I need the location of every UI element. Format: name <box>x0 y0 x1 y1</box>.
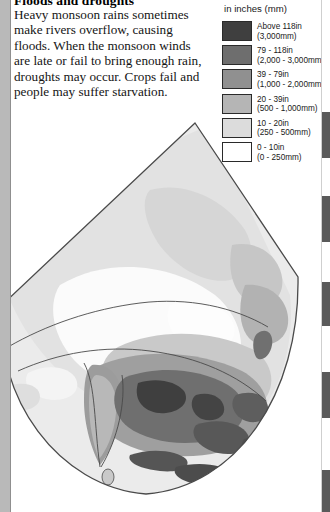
legend-label-mm: (0 - 250mm) <box>257 153 302 163</box>
article-paragraph: Heavy monsoon rains sometimes make river… <box>14 7 210 99</box>
legend-label-mm: (250 - 500mm) <box>257 128 311 138</box>
legend-item-20-39in: 20 - 39in (500 - 1,000mm) <box>222 94 330 114</box>
legend-swatch-0-10in <box>222 142 252 162</box>
legend-label-inches: 79 - 118in <box>257 46 324 56</box>
page-edge-tab <box>322 372 330 418</box>
page-edge-tab <box>322 282 330 326</box>
legend-swatch-20-39in <box>222 94 252 114</box>
legend-label-20-39in: 20 - 39in (500 - 1,000mm) <box>257 94 318 114</box>
legend-swatch-79-118in <box>222 45 252 65</box>
legend-swatch-above-118in <box>222 21 252 41</box>
legend-item-39-79in: 39 - 79in (1,000 - 2,000mm) <box>222 69 330 89</box>
legend-item-10-20in: 10 - 20in (250 - 500mm) <box>222 118 330 138</box>
legend-item-above-118in: Above 118in (3,000mm) <box>222 21 330 41</box>
legend-label-inches: 10 - 20in <box>257 119 311 129</box>
legend-label-10-20in: 10 - 20in (250 - 500mm) <box>257 118 311 138</box>
new-guinea-island <box>242 437 281 467</box>
page-binding-margin <box>0 0 11 512</box>
legend-label-inches: 39 - 79in <box>257 70 324 80</box>
page-edge-tab <box>322 470 330 512</box>
rainfall-legend: in inches (mm) Above 118in (3,000mm) 79 … <box>222 0 330 166</box>
article-body: Heavy monsoon rains sometimes make river… <box>14 7 210 99</box>
legend-title: in inches (mm) <box>224 3 330 14</box>
legend-label-mm: (2,000 - 3,000mm) <box>257 56 324 66</box>
legend-label-mm: (3,000mm) <box>257 32 302 42</box>
legend-label-inches: 20 - 39in <box>257 95 318 105</box>
sri-lanka-island <box>102 469 114 485</box>
legend-label-39-79in: 39 - 79in (1,000 - 2,000mm) <box>257 69 324 89</box>
legend-label-mm: (1,000 - 2,000mm) <box>257 80 324 90</box>
legend-label-0-10in: 0 - 10in (0 - 250mm) <box>257 142 302 162</box>
legend-label-above-118in: Above 118in (3,000mm) <box>257 21 302 41</box>
legend-label-79-118in: 79 - 118in (2,000 - 3,000mm) <box>257 45 324 65</box>
legend-swatch-10-20in <box>222 118 252 138</box>
legend-label-inches: Above 118in <box>257 22 302 32</box>
legend-label-inches: 0 - 10in <box>257 143 302 153</box>
page-edge-tab <box>322 196 330 242</box>
legend-item-0-10in: 0 - 10in (0 - 250mm) <box>222 142 330 162</box>
textbook-page: Floods and droughts Heavy monsoon rains … <box>0 0 330 512</box>
legend-item-79-118in: 79 - 118in (2,000 - 3,000mm) <box>222 45 330 65</box>
legend-label-mm: (500 - 1,000mm) <box>257 104 318 114</box>
page-edge-tab <box>322 112 330 158</box>
legend-swatch-39-79in <box>222 69 252 89</box>
page-edge-tab-strip <box>321 0 330 512</box>
